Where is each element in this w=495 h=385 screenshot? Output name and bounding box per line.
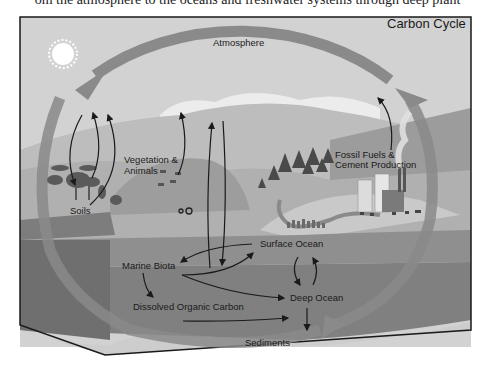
block-left-face	[20, 240, 110, 340]
label-deep-ocean: Deep Ocean	[290, 292, 343, 303]
label-vegetation-line1: Vegetation &	[124, 154, 178, 165]
label-soils: Soils	[70, 205, 91, 216]
label-surface-ocean: Surface Ocean	[260, 238, 323, 249]
label-atmosphere: Atmosphere	[213, 37, 264, 48]
label-sediments: Sediments	[245, 337, 290, 348]
label-dissolved-organic-carbon: Dissolved Organic Carbon	[133, 301, 244, 312]
label-marine-biota: Marine Biota	[122, 260, 175, 271]
label-vegetation-line2: Animals	[124, 165, 158, 176]
carbon-cycle-illustration	[0, 0, 495, 385]
label-fossil-line2: Cement Production	[335, 159, 416, 170]
diagram-title: Carbon Cycle	[387, 16, 466, 31]
